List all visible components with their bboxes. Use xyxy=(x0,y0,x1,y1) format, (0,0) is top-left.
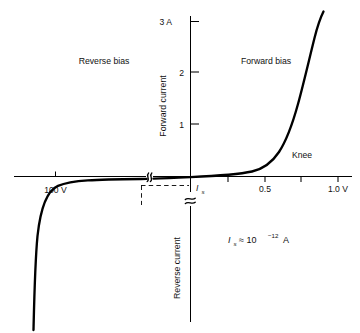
saturation-note-unit: A xyxy=(283,235,289,245)
x-tick-label-is-symbol: I xyxy=(196,183,199,193)
forward-bias-region-label: Forward bias xyxy=(241,56,292,66)
saturation-current-guides xyxy=(141,186,189,206)
reverse-bias-curve xyxy=(34,179,147,330)
knee-label: Knee xyxy=(292,150,312,160)
y-axis-title-forward-current: Forward current xyxy=(158,75,168,137)
x-tick-label-05: 0.5 xyxy=(259,184,271,194)
saturation-note-exponent: −12 xyxy=(268,232,279,239)
x-tick-label-10v: 1.0 V xyxy=(328,184,348,194)
reverse-bias-region-label: Reverse bias xyxy=(79,56,130,66)
x-axis-break-icon xyxy=(147,173,152,182)
y-tick-label-2: 2 xyxy=(179,68,184,78)
reverse-saturation-segment xyxy=(154,177,191,179)
y-tick-label-3a: 3 A xyxy=(160,17,173,27)
y-axis-break-icon xyxy=(185,198,195,203)
saturation-current-note: I s ≈ 10 −12 A xyxy=(228,232,289,247)
y-axis-title-reverse-current: Reverse current xyxy=(172,237,182,299)
x-tick-label-is: I s xyxy=(196,183,205,195)
saturation-note-subscript: s xyxy=(234,240,237,247)
diode-iv-characteristic-figure: 3 A 2 1 100 V 0.5 1.0 V I s xyxy=(0,0,360,333)
y-axis-ticks xyxy=(191,22,200,125)
saturation-note-symbol: I xyxy=(228,235,231,245)
saturation-note-relation: ≈ 10 xyxy=(239,235,256,245)
x-tick-label-is-subscript: s xyxy=(202,188,205,195)
y-tick-label-1: 1 xyxy=(179,120,184,130)
